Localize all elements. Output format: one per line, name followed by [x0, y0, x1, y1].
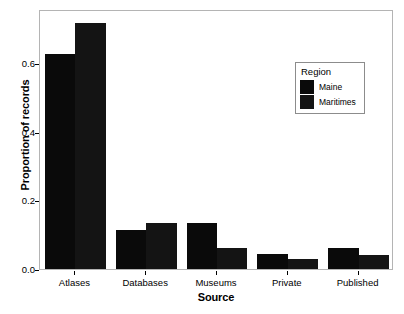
x-tick-label-databases: Databases — [122, 277, 167, 288]
chart-figure: Proportion of records 0.0 0.2 0.4 0.6 At… — [0, 0, 404, 314]
y-tick-mark — [35, 270, 39, 271]
x-tick-mark — [74, 271, 75, 275]
x-tick-label-published: Published — [337, 277, 379, 288]
x-tick-mark — [358, 271, 359, 275]
legend-item-maine[interactable]: Maine — [300, 79, 360, 94]
y-tick-label: 0.6 — [19, 58, 35, 69]
bar-atlases-maritimes — [75, 23, 105, 269]
legend-title: Region — [300, 66, 360, 77]
bar-museums-maritimes — [217, 248, 247, 269]
y-tick-label: 0.0 — [19, 264, 35, 275]
x-tick-mark — [145, 271, 146, 275]
legend-item-maritimes[interactable]: Maritimes — [300, 94, 360, 109]
x-tick-label-atlases: Atlases — [59, 277, 90, 288]
bar-atlases-maine — [45, 54, 75, 269]
bar-databases-maine — [116, 230, 146, 269]
bars-container — [40, 11, 392, 269]
bar-databases-maritimes — [146, 223, 176, 269]
bar-museums-maine — [187, 223, 217, 269]
legend-label-maritimes: Maritimes — [319, 97, 356, 107]
x-tick-mark — [287, 271, 288, 275]
legend-swatch-maine — [300, 80, 314, 94]
bar-private-maine — [257, 254, 287, 269]
legend: Region Maine Maritimes — [295, 62, 365, 114]
legend-swatch-maritimes — [300, 95, 314, 109]
legend-label-maine: Maine — [319, 82, 342, 92]
x-tick-mark — [216, 271, 217, 275]
bar-published-maritimes — [359, 255, 389, 269]
x-tick-label-private: Private — [272, 277, 302, 288]
y-tick-label: 0.4 — [19, 127, 35, 138]
y-tick-label: 0.2 — [19, 195, 35, 206]
bar-private-maritimes — [288, 259, 318, 269]
bar-published-maine — [328, 248, 358, 269]
x-tick-label-museums: Museums — [195, 277, 236, 288]
x-axis-title: Source — [39, 291, 393, 303]
y-axis-ticks: 0.0 0.2 0.4 0.6 — [19, 0, 35, 314]
plot-panel — [39, 10, 393, 270]
